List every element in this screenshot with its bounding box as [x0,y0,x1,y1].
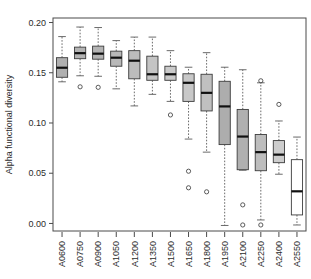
outlier-point [277,102,281,106]
x-tick-label: A1650 [184,241,194,267]
x-tick-label: A1050 [111,241,121,267]
y-tick-label: 0.05 [28,168,46,178]
y-tick-label: 0.20 [28,18,46,28]
outlier-point [186,186,190,190]
y-tick-label: 0.10 [28,118,46,128]
box-rect [291,160,302,215]
box-group [165,51,176,117]
outlier-point [96,85,100,89]
box-rect [273,141,284,163]
box-group [129,37,140,106]
boxplot-figure: 0.000.050.100.150.20Alpha functional div… [0,0,311,279]
box-group [56,37,67,82]
outlier-point [186,169,190,173]
box-rect [237,109,248,169]
box-group [273,102,284,174]
outlier-point [259,79,263,83]
x-tick-label: A2550 [292,241,302,267]
box-rect [183,74,194,102]
box-group [255,79,266,227]
x-tick-label: A1500 [166,241,176,267]
x-tick-label: A1800 [202,241,212,267]
box-group [147,37,158,94]
outlier-point [241,203,245,207]
x-tick-label: A1200 [130,241,140,267]
box-group [201,53,212,194]
box-rect [219,81,230,144]
x-tick-label: A1350 [148,241,158,267]
x-tick-label: A0900 [93,241,103,267]
plot-frame [53,18,306,231]
box-group [237,70,248,227]
box-group [183,67,194,190]
y-tick-label: 0.15 [28,68,46,78]
outlier-point [241,223,245,227]
box-rect [147,56,158,80]
box-group [111,41,122,89]
outlier-point [205,190,209,194]
x-tick-label: A0600 [57,241,67,267]
y-tick-label: 0.00 [28,219,46,229]
boxplot-canvas: 0.000.050.100.150.20Alpha functional div… [0,0,311,279]
box-group [75,27,86,89]
x-tick-label: A2400 [274,241,284,267]
x-tick-label: A1950 [220,241,230,267]
x-tick-label: A2250 [256,241,266,267]
box-group [291,137,302,225]
box-rect [129,51,140,79]
x-tick-label: A2100 [238,241,248,267]
outlier-point [168,113,172,117]
y-axis-title: Alpha functional diversity [4,74,14,174]
x-tick-label: A0750 [75,241,85,267]
box-group [219,67,230,225]
box-group [93,28,104,90]
outlier-point [259,223,263,227]
outlier-point [78,85,82,89]
